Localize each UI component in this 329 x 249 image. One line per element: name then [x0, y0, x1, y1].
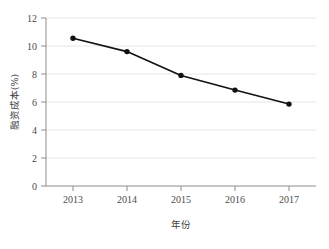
x-tick-label: 2013: [63, 194, 83, 205]
data-point: [232, 87, 237, 92]
y-tick-label: 6: [32, 97, 37, 108]
chart-figure: 12 10 8 6 4 2 0 2013 2014 2015 2016 2017: [0, 0, 329, 249]
y-tick-label: 4: [32, 125, 37, 136]
figure-caption-partial: [0, 241, 329, 249]
data-point: [286, 101, 291, 106]
data-point: [124, 49, 129, 54]
x-tick-label: 2016: [225, 194, 245, 205]
x-tick-label: 2017: [279, 194, 299, 205]
y-tick-label: 0: [32, 181, 37, 192]
line-chart-svg: 12 10 8 6 4 2 0 2013 2014 2015 2016 2017: [0, 0, 329, 249]
y-tick-label: 8: [32, 69, 37, 80]
x-axis-title: 年份: [171, 219, 191, 230]
x-tick-label: 2015: [171, 194, 191, 205]
data-point: [70, 36, 75, 41]
x-tick-label: 2014: [117, 194, 137, 205]
data-point: [178, 73, 183, 78]
chart-background: [0, 0, 329, 249]
y-tick-label: 12: [27, 13, 37, 24]
y-axis-title: 融资成本(%): [9, 74, 20, 130]
y-tick-label: 2: [32, 153, 37, 164]
y-tick-label: 10: [27, 41, 37, 52]
